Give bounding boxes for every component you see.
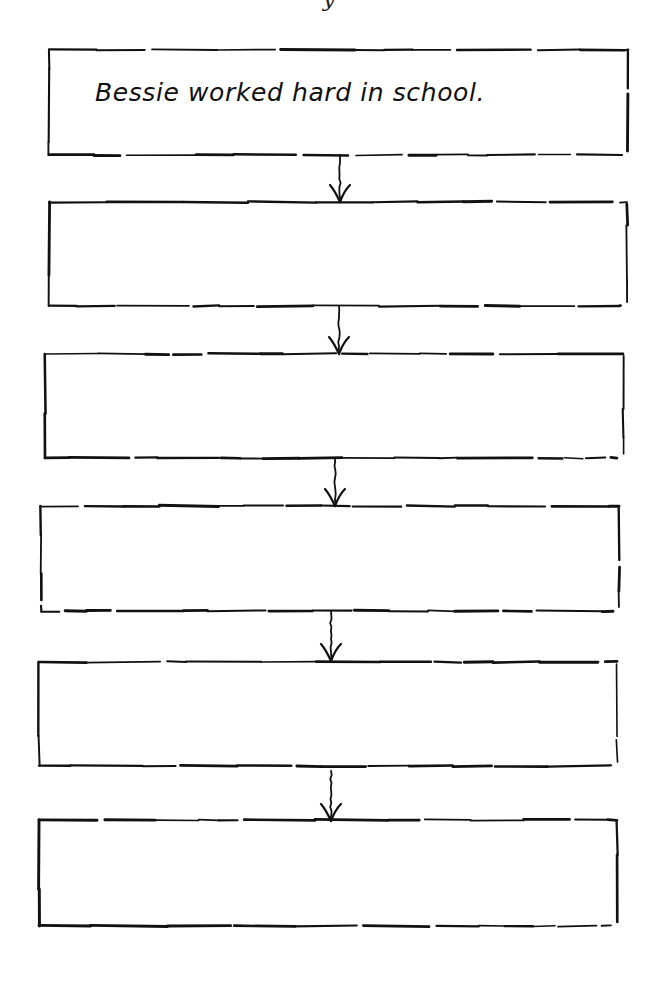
flowchart-box-5[interactable] bbox=[39, 662, 617, 766]
flowchart-box-2[interactable] bbox=[49, 202, 627, 306]
connector-arrow-4 bbox=[319, 611, 343, 662]
box-border bbox=[49, 202, 627, 306]
flowchart-box-3[interactable] bbox=[45, 354, 623, 458]
box-border bbox=[41, 506, 619, 611]
box-border bbox=[39, 662, 617, 766]
arrow-down-icon bbox=[327, 306, 351, 355]
box-border bbox=[39, 820, 617, 926]
arrow-down-icon bbox=[319, 611, 343, 662]
connector-arrow-1 bbox=[328, 155, 352, 203]
connector-arrow-3 bbox=[323, 458, 347, 507]
connector-arrow-5 bbox=[319, 771, 343, 822]
flowchart-box-1[interactable]: Bessie worked hard in school. bbox=[49, 50, 628, 155]
flowchart-box-6[interactable] bbox=[39, 820, 617, 926]
flowchart-box-4[interactable] bbox=[41, 506, 619, 611]
box-text: Bessie worked hard in school. bbox=[95, 78, 485, 107]
flowchart-worksheet: Bessie worked hard in school. bbox=[0, 0, 658, 982]
connector-arrow-2 bbox=[327, 306, 351, 355]
arrow-down-icon bbox=[323, 458, 347, 507]
arrow-down-icon bbox=[328, 155, 352, 203]
box-border bbox=[45, 354, 623, 458]
arrow-down-icon bbox=[319, 771, 343, 822]
